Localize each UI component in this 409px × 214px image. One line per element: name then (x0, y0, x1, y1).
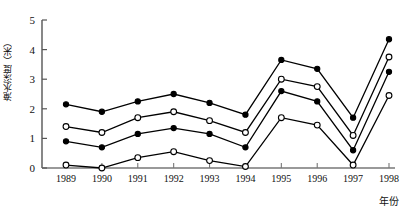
data-point-open (350, 162, 356, 168)
x-axis-title: 年份 (379, 193, 399, 208)
y-axis-tick-label: 0 (30, 162, 36, 174)
series-line (66, 72, 389, 150)
data-point-open (207, 118, 213, 124)
data-point-filled (243, 145, 248, 150)
chart-plot-area: 0123451989199019911992199319941995199619… (0, 0, 409, 214)
y-axis-tick-label: 3 (30, 73, 36, 85)
x-axis-tick-label: 1994 (235, 173, 255, 184)
data-point-open (350, 133, 356, 139)
data-point-open (99, 130, 105, 136)
data-point-filled (135, 99, 140, 104)
data-point-filled (135, 131, 140, 136)
series-series-3 (63, 69, 391, 153)
data-point-filled (207, 100, 212, 105)
series-line (66, 95, 389, 168)
x-axis-tick-label: 1997 (343, 173, 363, 184)
data-point-open (314, 122, 320, 128)
data-point-filled (171, 125, 176, 130)
data-point-open (63, 162, 69, 168)
data-point-filled (207, 131, 212, 136)
data-point-filled (315, 66, 320, 71)
data-point-filled (351, 115, 356, 120)
data-point-filled (63, 102, 68, 107)
y-axis-tick-label: 2 (30, 103, 36, 115)
x-axis-tick-label: 1998 (379, 173, 399, 184)
data-point-open (243, 164, 249, 170)
data-point-open (135, 115, 141, 121)
data-point-open (63, 124, 69, 130)
data-point-filled (99, 109, 104, 114)
data-point-filled (63, 139, 68, 144)
data-point-open (171, 149, 177, 155)
x-axis-tick-label: 1990 (92, 173, 112, 184)
data-point-open (135, 155, 141, 161)
series-line (66, 39, 389, 117)
data-point-open (243, 130, 249, 136)
series-series-1 (63, 37, 391, 121)
data-point-open (99, 165, 105, 171)
x-axis-tick-label: 1993 (200, 173, 220, 184)
data-point-open (207, 158, 213, 164)
data-point-open (278, 115, 284, 121)
data-point-filled (279, 57, 284, 62)
series-series-2 (63, 54, 392, 138)
x-axis-tick-label: 1992 (164, 173, 184, 184)
series-line (66, 57, 389, 135)
data-point-filled (243, 112, 248, 117)
x-axis-tick-label: 1995 (271, 173, 291, 184)
data-point-open (171, 109, 177, 115)
y-axis-tick-label: 5 (30, 14, 36, 26)
data-point-open (386, 93, 392, 99)
data-point-filled (279, 88, 284, 93)
flood-depth-line-chart: 淹水深度（米） 01234519891990199119921993199419… (0, 0, 409, 214)
data-point-filled (386, 69, 391, 74)
data-point-open (314, 84, 320, 90)
data-point-open (278, 76, 284, 82)
data-point-filled (171, 91, 176, 96)
data-point-filled (386, 37, 391, 42)
data-point-filled (351, 148, 356, 153)
x-axis-tick-label: 1996 (307, 173, 327, 184)
y-axis-tick-label: 1 (30, 132, 36, 144)
x-axis-tick-label: 1991 (128, 173, 148, 184)
data-point-open (386, 54, 392, 60)
y-axis-tick-label: 4 (30, 44, 36, 56)
data-point-filled (315, 99, 320, 104)
x-axis-tick-label: 1989 (56, 173, 76, 184)
data-point-filled (99, 145, 104, 150)
